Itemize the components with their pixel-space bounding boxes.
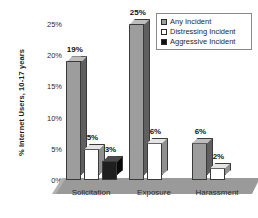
bar-chart: % Internet Users, 10-17 years 0%5%10%15%…: [0, 0, 258, 218]
bar-front-face: [129, 24, 144, 180]
y-axis-tick-label: 0%: [28, 176, 62, 185]
bar-front-face: [84, 149, 99, 180]
y-axis-tick-label: 10%: [28, 113, 62, 122]
y-axis-tick-label: 5%: [28, 144, 62, 153]
legend-item-label: Distressing Incident: [170, 27, 235, 36]
bar-value-label: 6%: [195, 127, 207, 136]
bar-front-face: [102, 161, 117, 180]
y-axis-tick-label: 15%: [28, 82, 62, 91]
x-axis-tick-label: Harassment: [195, 188, 238, 197]
bar-value-label: 5%: [87, 133, 99, 142]
bar: 6%: [147, 143, 162, 180]
bar: 5%: [84, 149, 99, 180]
filled-black-square-icon: [161, 39, 167, 45]
legend-item: Any Incident: [161, 17, 247, 26]
x-axis-tick-label: Solicitation: [72, 188, 111, 197]
bar-value-label: 2%: [213, 152, 225, 161]
bar-value-label: 25%: [130, 8, 146, 17]
filled-gray-square-icon: [161, 19, 167, 25]
bar-front-face: [66, 61, 81, 180]
bar-front-face: [192, 143, 207, 180]
y-axis-tick-label: 25%: [28, 20, 62, 29]
bar-value-label: 6%: [150, 127, 162, 136]
legend-item: Aggressive Incident: [161, 37, 247, 46]
bar: 19%: [66, 61, 81, 180]
legend-item: Distressing Incident: [161, 27, 247, 36]
bar: 2%: [210, 168, 225, 180]
bar: 25%: [129, 24, 144, 180]
x-axis-tick-label: Exposure: [137, 188, 171, 197]
bar-group: 19%5%3%: [66, 24, 126, 180]
bar: 6%: [192, 143, 207, 180]
bar-value-label: 19%: [67, 45, 83, 54]
bar: 3%: [102, 161, 117, 180]
y-axis-ticks: 0%5%10%15%20%25%: [0, 0, 62, 218]
bar-value-label: 3%: [105, 145, 117, 154]
outlined-white-square-icon: [161, 29, 167, 35]
bar-front-face: [147, 143, 162, 180]
chart-legend: Any IncidentDistressing IncidentAggressi…: [156, 13, 252, 50]
legend-item-label: Any Incident: [170, 17, 211, 26]
bar-side-face: [162, 138, 168, 175]
bar-front-face: [210, 168, 225, 180]
y-axis-tick-label: 20%: [28, 51, 62, 60]
legend-item-label: Aggressive Incident: [170, 37, 235, 46]
